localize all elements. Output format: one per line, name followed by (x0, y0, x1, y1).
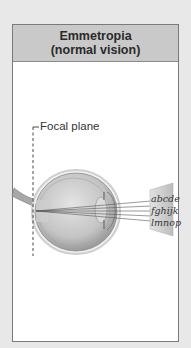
eye-chart-line-1: abcde (151, 193, 180, 204)
focal-plane-label: Focal plane (40, 120, 99, 132)
lens (95, 197, 107, 223)
eye-diagram (0, 0, 191, 348)
eye-chart-line-2: fghijk (151, 205, 178, 216)
eye-chart-line-3: lmnop (151, 217, 181, 228)
